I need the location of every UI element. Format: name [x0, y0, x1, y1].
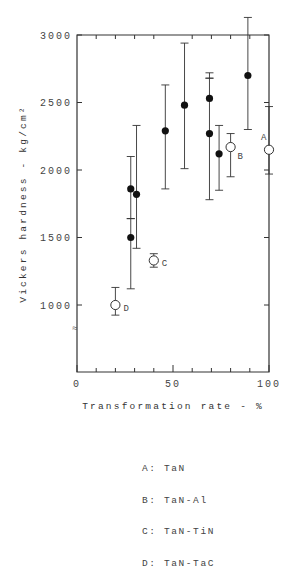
axis-tick-labels: 10001500200025003000050100 [40, 31, 281, 391]
y-tick-label: 1000 [40, 301, 72, 312]
legend-item-b: B: TaN-Al [142, 496, 215, 507]
legend: A: TaN B: TaN-Al C: TaN-TiN D: TaN-TaC [142, 443, 215, 570]
y-tick-label: 2500 [40, 98, 72, 109]
point-labels: ABCD [123, 133, 267, 314]
axis-break-icon: ≈ [72, 324, 77, 334]
x-tick-label: 0 [73, 379, 81, 390]
axis-ticks [77, 35, 269, 372]
legend-item-d: D: TaN-TaC [142, 559, 215, 570]
open-data-point-c [149, 256, 158, 265]
data-points [111, 72, 274, 310]
open-data-point-a [264, 145, 273, 154]
hardness-chart: 10001500200025003000050100 ABCD ≈ Transf… [0, 0, 295, 440]
y-tick-label: 1500 [40, 233, 72, 244]
point-label-d: D [123, 304, 128, 314]
filled-data-point [206, 130, 213, 137]
error-bars [111, 17, 273, 315]
filled-data-point [162, 127, 169, 134]
plot-frame [77, 35, 269, 372]
point-label-a: A [261, 133, 267, 143]
legend-item-c: C: TaN-TiN [142, 527, 215, 538]
open-data-point-d [111, 300, 120, 309]
x-axis-title: Transformation rate - % [82, 401, 264, 412]
filled-data-point [244, 72, 251, 79]
y-axis-title: Vickers hardness - kg/cm² [18, 105, 29, 303]
filled-data-point [181, 102, 188, 109]
filled-data-point [127, 185, 134, 192]
open-data-point-b [226, 142, 235, 151]
x-tick-label: 50 [165, 379, 181, 390]
y-tick-label: 2000 [40, 166, 72, 177]
filled-data-point [133, 191, 140, 198]
legend-item-a: A: TaN [142, 464, 215, 475]
filled-data-point [206, 95, 213, 102]
x-tick-label: 100 [257, 379, 281, 390]
filled-data-point [127, 234, 134, 241]
filled-data-point [215, 150, 222, 157]
point-label-b: B [238, 152, 244, 162]
point-label-c: C [162, 259, 168, 269]
plot-border [77, 35, 269, 372]
y-tick-label: 3000 [40, 31, 72, 42]
